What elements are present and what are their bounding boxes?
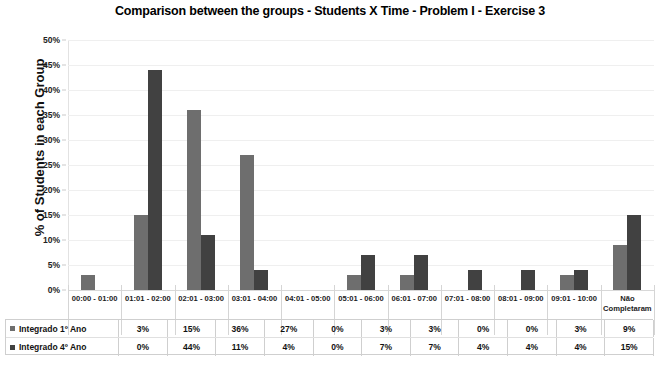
x-tick-label: 02:01 - 03:00 [175,294,228,304]
bar [468,270,482,290]
x-tick-label: 01:01 - 02:00 [121,294,174,304]
y-tick-mark [62,40,66,41]
y-tick-mark [62,290,66,291]
bar [361,255,375,290]
y-tick-label: 50% [43,35,60,45]
table-cell: 7% [411,338,460,356]
bar [240,155,254,290]
x-tick-label: Não Completaram [601,294,654,313]
legend-label: Integrado 4º Ano [19,342,87,352]
bar [613,245,627,290]
legend-swatch-icon [10,345,15,350]
y-tick-mark [62,90,66,91]
bar [400,275,414,290]
bar [134,215,148,290]
y-tick-label: 5% [48,260,60,270]
legend-swatch-icon [10,326,15,331]
y-tick-label: 30% [43,135,60,145]
y-tick-mark [62,140,66,141]
y-tick-label: 45% [43,60,60,70]
table-cell: 0% [508,320,557,337]
x-tick-label: 08:01 - 09:00 [494,294,547,304]
y-tick-mark [62,165,66,166]
table-cell: 4% [557,338,606,356]
y-axis-tick-labels: 0%5%10%15%20%25%30%35%40%45%50% [0,40,66,290]
bar [521,270,535,290]
y-tick-mark [62,265,66,266]
chart-container: Comparison between the groups - Students… [0,0,656,365]
gridline [68,290,654,291]
table-cell: 27% [265,320,314,337]
table-cell: 44% [168,338,217,356]
table-cell: 0% [314,320,363,337]
chart-title: Comparison between the groups - Students… [60,4,600,18]
table-cell: 3% [411,320,460,337]
bar [347,275,361,290]
y-tick-mark [62,190,66,191]
table-cell: 36% [216,320,265,337]
table-cell: 0% [314,338,363,356]
legend-label: Integrado 1º Ano [19,324,87,334]
table-cell: 9% [605,320,654,337]
y-tick-label: 25% [43,160,60,170]
x-tick-label: 03:01 - 04:00 [228,294,281,304]
legend-entry: Integrado 1º Ano [6,320,119,337]
table-cell: 11% [216,338,265,356]
data-table: Integrado 1º Ano3%15%36%27%0%3%3%0%0%3%9… [5,319,653,355]
table-cell: 4% [265,338,314,356]
x-tick-label: 06:01 - 07:00 [388,294,441,304]
table-cell: 7% [362,338,411,356]
x-tick-label: 07:01 - 08:00 [441,294,494,304]
y-tick-mark [62,65,66,66]
y-tick-label: 10% [43,235,60,245]
table-cell: 15% [605,338,654,356]
y-tick-label: 20% [43,185,60,195]
gridline [68,40,654,41]
table-cell: 4% [459,338,508,356]
table-cell: 0% [119,338,168,356]
y-tick-label: 35% [43,110,60,120]
table-row: Integrado 1º Ano3%15%36%27%0%3%3%0%0%3%9… [6,320,653,338]
x-tick-label: 00:00 - 01:00 [68,294,121,304]
bar [560,275,574,290]
bar [254,270,268,290]
table-cell: 3% [362,320,411,337]
bar [148,70,162,290]
table-cell: 15% [168,320,217,337]
bar [187,110,201,290]
bar [414,255,428,290]
x-tick-label: 04:01 - 05:00 [281,294,334,304]
bar [627,215,641,290]
table-cell: 3% [119,320,168,337]
x-axis-tick-mark [654,285,655,335]
table-cell: 0% [459,320,508,337]
table-row: Integrado 4º Ano0%44%11%4%0%7%7%4%4%4%15… [6,338,653,356]
bar [81,275,95,290]
bar [574,270,588,290]
plot-area [68,40,654,290]
y-tick-label: 0% [48,285,60,295]
x-tick-label: 09:01 - 10:00 [547,294,600,304]
y-tick-mark [62,115,66,116]
gridline [68,65,654,66]
y-tick-mark [62,240,66,241]
bar [201,235,215,290]
table-cell: 4% [508,338,557,356]
y-tick-label: 40% [43,85,60,95]
y-tick-label: 15% [43,210,60,220]
legend-entry: Integrado 4º Ano [6,338,119,356]
x-tick-label: 05:01 - 06:00 [334,294,387,304]
y-tick-mark [62,215,66,216]
x-axis-tick-labels: 00:00 - 01:0001:01 - 02:0002:01 - 03:000… [68,292,654,322]
table-cell: 3% [557,320,606,337]
